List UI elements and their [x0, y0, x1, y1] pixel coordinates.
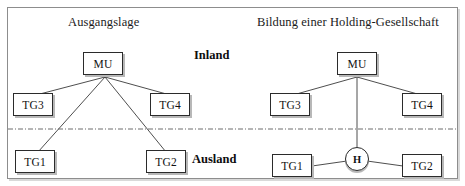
- node-left-tg2: TG2: [146, 150, 186, 173]
- region-label-ausland: Ausland: [192, 152, 236, 167]
- region-label-inland: Inland: [194, 48, 229, 63]
- node-left-tg4: TG4: [150, 93, 190, 116]
- node-right-tg3: TG3: [270, 93, 310, 116]
- node-right-tg4: TG4: [402, 93, 442, 116]
- node-right-tg1: TG1: [272, 154, 312, 177]
- panel-title-ausgangslage: Ausgangslage: [68, 15, 139, 30]
- node-left-tg3: TG3: [13, 93, 53, 116]
- node-left-tg1: TG1: [15, 150, 55, 173]
- panel-title-holding-gesellschaft: Bildung einer Holding-Gesellschaft: [257, 15, 439, 30]
- node-right-holding: H: [345, 147, 369, 171]
- node-left-mu: MU: [83, 52, 123, 75]
- inland-ausland-divider: [8, 126, 457, 132]
- node-right-tg2: TG2: [402, 154, 442, 177]
- diagram-canvas: Ausgangslage Bildung einer Holding-Gesel…: [0, 0, 465, 186]
- node-right-mu: MU: [337, 52, 377, 75]
